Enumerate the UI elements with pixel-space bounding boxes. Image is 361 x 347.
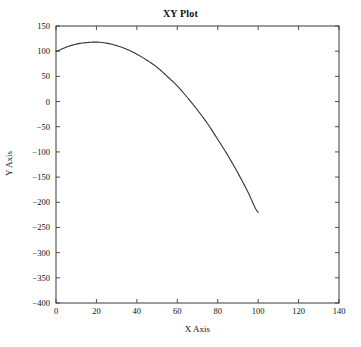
y-tick-label: −250 (6, 222, 50, 232)
x-tick-label: 20 (76, 306, 116, 316)
x-tick-label: 140 (319, 306, 359, 316)
figure-canvas: XY Plot 020406080100120140 150100500−50−… (0, 0, 361, 347)
y-tick-label: 150 (6, 21, 50, 31)
y-tick-label: −350 (6, 273, 50, 283)
y-tick-label: −200 (6, 197, 50, 207)
x-tick-label: 100 (238, 306, 278, 316)
y-tick-label: −300 (6, 248, 50, 258)
x-tick-label: 120 (279, 306, 319, 316)
y-axis-label: Y Axis (4, 129, 15, 199)
x-tick-label: 40 (117, 306, 157, 316)
y-tick-label: 100 (6, 46, 50, 56)
x-tick-label: 60 (157, 306, 197, 316)
plot-area (0, 0, 361, 347)
y-tick-label: 50 (6, 71, 50, 81)
y-tick-label: −400 (6, 298, 50, 308)
y-tick-label: 0 (6, 97, 50, 107)
x-tick-label: 80 (198, 306, 238, 316)
x-axis-label: X Axis (56, 324, 339, 335)
plot-frame (56, 26, 339, 303)
